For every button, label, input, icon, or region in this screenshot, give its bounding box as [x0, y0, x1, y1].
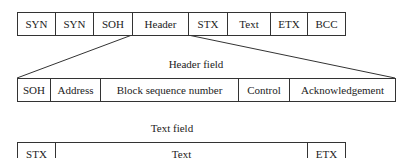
header-field-row: SOH Address Block sequence number Contro… [17, 78, 396, 102]
header-field-control: Control [239, 79, 290, 101]
text-field-row: STX Text ETX [17, 142, 346, 158]
frame-field-etx: ETX [271, 13, 308, 35]
header-field-block-sequence-number: Block sequence number [101, 79, 239, 101]
frame-field-text: Text [228, 13, 271, 35]
text-field-text: Text [56, 143, 308, 158]
expansion-line-left [17, 35, 132, 78]
frame-row: SYN SYN SOH Header STX Text ETX BCC [17, 12, 346, 36]
header-field-soh: SOH [18, 79, 51, 101]
frame-field-header: Header [133, 13, 189, 35]
text-field-etx: ETX [308, 143, 345, 158]
frame-field-soh: SOH [94, 13, 133, 35]
header-field-caption: Header field [169, 58, 224, 70]
frame-field-syn-1: SYN [18, 13, 56, 35]
text-field-caption: Text field [151, 122, 193, 134]
header-field-acknowledgement: Acknowledgement [290, 79, 395, 101]
frame-field-bcc: BCC [308, 13, 345, 35]
text-field-stx: STX [18, 143, 56, 158]
expansion-line-right [188, 35, 395, 78]
frame-field-stx: STX [189, 13, 228, 35]
header-field-address: Address [51, 79, 101, 101]
frame-field-syn-2: SYN [56, 13, 94, 35]
